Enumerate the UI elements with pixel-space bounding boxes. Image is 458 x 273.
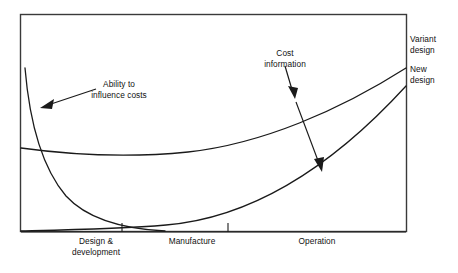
figure-root: Variant design New design Ability to inf… <box>0 0 458 273</box>
cost-information-annotation-arrow <box>285 66 324 172</box>
curve-new-design <box>21 86 406 231</box>
frame-border <box>21 15 407 232</box>
annotation-ability-to-influence-costs: Ability to influence costs <box>91 79 147 100</box>
axis-label-operation: Operation <box>299 236 336 247</box>
diagram-canvas <box>0 0 458 273</box>
curve-label-new-design: New design <box>410 64 435 85</box>
ability-annotation-arrow <box>40 89 96 109</box>
axis-label-design-development: Design & development <box>72 236 120 257</box>
axis-label-manufacture: Manufacture <box>169 236 216 247</box>
annotation-cost-information: Cost information <box>264 48 306 69</box>
curve-label-variant-design: Variant design <box>410 34 436 55</box>
